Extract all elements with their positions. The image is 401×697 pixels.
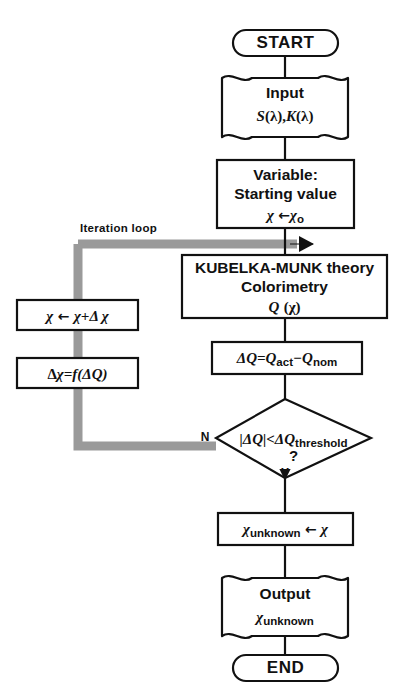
delta-chi-formula: Δχ=f(ΔQ) bbox=[17, 365, 138, 382]
kubelka-line-2: Colorimetry bbox=[182, 279, 387, 296]
update-chi-rhs: χ+Δ χ bbox=[74, 308, 109, 324]
decision-branch-no: N bbox=[198, 431, 212, 444]
variable-line-1: Variable: bbox=[217, 167, 354, 184]
delta-q-sub-nom: nom bbox=[313, 356, 337, 368]
update-chi-arrow-icon: ← bbox=[58, 308, 70, 324]
delta-q-sub-act: act bbox=[276, 356, 293, 368]
assign-unknown-val: χ bbox=[321, 521, 328, 537]
kubelka-formula: Q (χ) bbox=[182, 298, 387, 315]
output-chi-sub: unknown bbox=[263, 615, 314, 627]
delta-q-lhs: ΔQ=Q bbox=[237, 350, 277, 366]
variable-chi: χ bbox=[267, 207, 274, 223]
assign-unknown-formula: χunknown ← χ bbox=[218, 520, 353, 539]
delta-q-formula: ΔQ=Qact−Qnom bbox=[212, 349, 362, 368]
update-chi-formula: χ ← χ+Δ χ bbox=[17, 307, 138, 324]
iteration-loop-label: Iteration loop bbox=[80, 222, 200, 234]
kubelka-q: Q bbox=[268, 299, 279, 315]
delta-q-minus: −Q bbox=[293, 350, 313, 366]
variable-line-2: Starting value bbox=[212, 186, 359, 203]
start-label: START bbox=[233, 34, 338, 52]
variable-chi-0: χ bbox=[290, 207, 297, 223]
update-chi-lhs: χ bbox=[46, 308, 53, 324]
input-lambda-1: (λ), bbox=[265, 108, 286, 124]
variable-chi-0-sub: o bbox=[297, 213, 304, 225]
input-k: K bbox=[286, 108, 296, 124]
delta-chi-delta: Δ bbox=[47, 366, 56, 382]
variable-arrow-icon: ← bbox=[278, 207, 290, 223]
input-s: S bbox=[257, 108, 265, 124]
input-formula: S(λ),K(λ) bbox=[222, 107, 348, 124]
assign-unknown-var: χ bbox=[243, 521, 250, 537]
decision-expr-sub: threshold bbox=[295, 437, 347, 449]
decision-expr: |ΔQ|<ΔQ bbox=[239, 431, 295, 447]
assign-unknown-sub: unknown bbox=[250, 527, 301, 539]
end-label: END bbox=[233, 659, 338, 677]
decision-question-mark: ? bbox=[216, 448, 371, 464]
assign-unknown-arrow-icon: ← bbox=[305, 521, 317, 537]
input-label: Input bbox=[222, 85, 348, 102]
output-label: Output bbox=[222, 586, 348, 603]
output-variable: χunknown bbox=[222, 608, 348, 627]
delta-chi-rhs: =f(ΔQ) bbox=[64, 366, 108, 382]
input-lambda-2: (λ) bbox=[296, 108, 313, 124]
decision-branch-yes: Y bbox=[278, 467, 292, 480]
variable-assignment: χ ←χo bbox=[217, 206, 354, 225]
flowchart-canvas: START Input S(λ),K(λ) Variable: Starting… bbox=[0, 0, 401, 697]
kubelka-line-1: KUBELKA-MUNK theory bbox=[182, 260, 387, 277]
delta-chi-chi: χ bbox=[57, 366, 64, 382]
kubelka-q-arg: (χ) bbox=[284, 299, 301, 315]
